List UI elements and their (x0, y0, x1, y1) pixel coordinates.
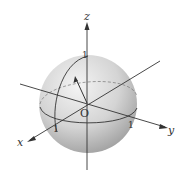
x-tick-label: 1 (53, 124, 59, 134)
y-tick-label: 1 (128, 120, 134, 130)
z-tick-label: 1 (82, 50, 88, 60)
x-axis-label: x (17, 136, 24, 149)
origin-label: O (80, 107, 89, 120)
z-axis-label: z (83, 10, 90, 23)
z-axis-arrowhead (85, 22, 90, 30)
y-axis-label: y (167, 124, 175, 137)
sphere-axes-figure: z y x O 1 1 1 (0, 0, 184, 183)
y-axis-arrowhead (159, 124, 168, 129)
unit-sphere-diagram: z y x O 1 1 1 (0, 0, 184, 183)
